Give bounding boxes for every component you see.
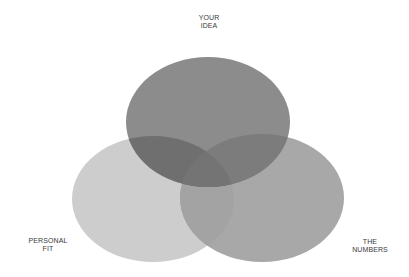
label-the-numbers-line1: THE <box>345 238 395 246</box>
label-the-numbers: THE NUMBERS <box>345 238 395 254</box>
label-personal-fit-line2: FIT <box>18 245 78 253</box>
label-your-idea-line1: YOUR <box>186 14 232 22</box>
label-the-numbers-line2: NUMBERS <box>345 246 395 254</box>
venn-diagram <box>0 0 409 277</box>
label-personal-fit: PERSONAL FIT <box>18 237 78 253</box>
label-your-idea: YOUR IDEA <box>186 14 232 30</box>
label-your-idea-line2: IDEA <box>186 22 232 30</box>
label-personal-fit-line1: PERSONAL <box>18 237 78 245</box>
